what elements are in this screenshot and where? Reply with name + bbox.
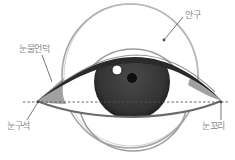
catchlight <box>112 65 122 75</box>
label-inner-corner: 눈구석 <box>7 121 30 131</box>
outer-corner-dot <box>220 101 223 104</box>
pupil <box>127 73 137 83</box>
eyeball-leader-dot <box>163 39 166 42</box>
label-outer-corner: 눈꼬리 <box>202 121 225 131</box>
caruncle-leader-line <box>42 55 52 82</box>
inner-corner-leader-line <box>27 102 38 120</box>
inner-corner-dot <box>37 101 40 104</box>
label-eyeball: 안구 <box>185 10 200 20</box>
label-caruncle: 눈물언덕 <box>19 44 49 54</box>
eye-diagram <box>0 0 235 160</box>
